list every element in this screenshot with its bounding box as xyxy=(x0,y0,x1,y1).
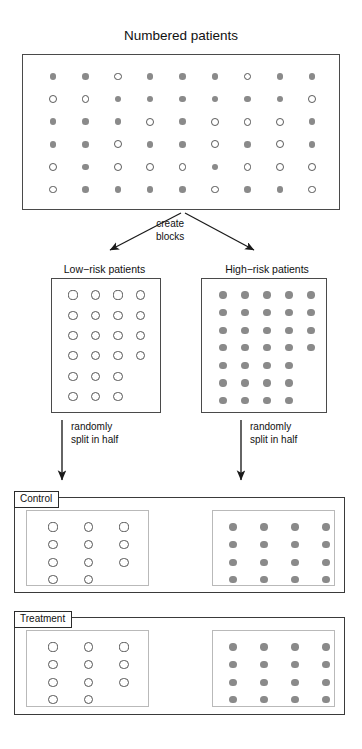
low-risk-patient-marker xyxy=(211,186,219,194)
high-risk-patient-marker xyxy=(309,141,316,148)
high-risk-patient-marker xyxy=(115,96,122,103)
low-risk-patient-marker xyxy=(211,140,219,148)
low-risk-patient-marker xyxy=(119,522,128,531)
high-risk-patient-marker xyxy=(263,291,270,298)
low-risk-patient-marker xyxy=(48,522,57,531)
high-risk-patient-marker xyxy=(229,643,236,650)
low-risk-patient-marker xyxy=(48,642,57,651)
high-risk-patient-marker xyxy=(179,186,186,193)
high-risk-patient-marker xyxy=(291,523,298,530)
high-risk-patient-marker xyxy=(307,327,314,334)
high-risk-patient-marker xyxy=(82,186,89,193)
high-risk-patient-marker xyxy=(147,186,154,193)
low-risk-patient-marker xyxy=(244,118,252,126)
high-risk-patient-marker xyxy=(219,309,226,316)
high-risk-patient-marker xyxy=(322,661,329,668)
low-risk-randomize-line2: split in half xyxy=(71,434,118,447)
low-risk-patient-marker xyxy=(49,186,57,194)
high-risk-patient-marker xyxy=(277,73,284,80)
high-risk-patient-marker xyxy=(50,73,57,80)
low-risk-patient-marker xyxy=(146,163,154,171)
high-risk-patient-marker xyxy=(263,327,270,334)
high-risk-patient-marker xyxy=(307,291,314,298)
high-risk-patient-marker xyxy=(219,344,226,351)
high-risk-block-label: High−risk patients xyxy=(192,263,342,275)
high-risk-patient-marker xyxy=(285,309,292,316)
low-risk-patient-marker xyxy=(308,163,316,171)
high-risk-patient-marker xyxy=(260,576,267,583)
high-risk-patient-marker xyxy=(307,344,314,351)
low-risk-patient-marker xyxy=(244,163,252,171)
high-risk-patient-marker xyxy=(322,559,329,566)
low-risk-patient-marker xyxy=(84,660,93,669)
high-risk-patient-marker xyxy=(147,141,154,148)
low-risk-patient-marker xyxy=(276,163,284,171)
page-title: Numbered patients xyxy=(0,28,362,43)
high-risk-patient-marker xyxy=(244,186,251,193)
low-risk-patient-marker xyxy=(82,95,90,103)
low-risk-patient-marker xyxy=(276,140,284,148)
low-risk-patient-marker xyxy=(68,311,77,320)
high-risk-patient-marker xyxy=(241,397,248,404)
high-risk-patient-marker xyxy=(291,541,298,548)
low-risk-patient-marker xyxy=(48,540,57,549)
low-risk-patient-marker xyxy=(113,392,122,401)
create-blocks-label: create blocks xyxy=(156,218,184,243)
treatment-low-risk-grid xyxy=(27,631,148,706)
low-risk-patient-marker xyxy=(114,140,122,148)
low-risk-patient-marker xyxy=(68,372,77,381)
high-risk-patient-marker xyxy=(291,559,298,566)
high-risk-patient-marker xyxy=(219,291,226,298)
high-risk-patient-marker xyxy=(219,397,226,404)
high-risk-patient-marker xyxy=(322,576,329,583)
create-blocks-arrow-right xyxy=(185,213,254,250)
high-risk-patient-marker xyxy=(263,397,270,404)
low-risk-patient-marker xyxy=(68,290,77,299)
low-risk-patient-marker xyxy=(91,351,100,360)
low-risk-patient-marker xyxy=(48,558,57,567)
high-risk-patient-marker xyxy=(229,523,236,530)
high-risk-patient-marker xyxy=(291,661,298,668)
high-risk-patient-marker xyxy=(229,576,236,583)
high-risk-patient-marker xyxy=(263,362,270,369)
low-risk-patient-marker xyxy=(84,558,93,567)
high-risk-patient-marker xyxy=(322,643,329,650)
high-risk-patient-marker xyxy=(322,696,329,703)
high-risk-patient-marker xyxy=(309,73,316,80)
high-risk-patient-marker xyxy=(241,379,248,386)
control-high-risk-grid xyxy=(213,511,334,585)
low-risk-patient-marker xyxy=(113,372,122,381)
high-risk-patient-marker xyxy=(260,679,267,686)
high-risk-patient-marker xyxy=(263,379,270,386)
high-risk-patient-marker xyxy=(263,344,270,351)
low-risk-patient-marker xyxy=(114,73,122,81)
control-group-label: Control xyxy=(14,491,59,508)
patient-pool-box xyxy=(22,54,340,210)
low-risk-patient-marker xyxy=(119,558,128,567)
low-risk-patient-marker xyxy=(84,678,93,687)
high-risk-patient-marker xyxy=(212,96,219,103)
high-risk-patient-marker xyxy=(285,397,292,404)
low-risk-patient-marker xyxy=(84,695,93,704)
treatment-high-risk-grid xyxy=(213,631,334,706)
high-risk-patient-marker xyxy=(229,661,236,668)
low-risk-randomize-line1: randomly xyxy=(71,421,118,434)
low-risk-patient-marker xyxy=(113,351,122,360)
low-risk-patient-marker xyxy=(48,575,57,584)
low-risk-patient-marker xyxy=(84,642,93,651)
high-risk-patient-marker xyxy=(285,362,292,369)
create-blocks-label-line2: blocks xyxy=(156,231,184,244)
low-risk-block-box xyxy=(51,278,161,413)
high-risk-patient-marker xyxy=(82,141,89,148)
high-risk-patient-marker xyxy=(277,96,284,103)
high-risk-patient-marker xyxy=(219,362,226,369)
low-risk-patient-marker xyxy=(84,575,93,584)
low-risk-patient-marker xyxy=(179,163,187,171)
high-risk-patient-marker xyxy=(229,696,236,703)
high-risk-patient-marker xyxy=(241,291,248,298)
patient-pool-grid xyxy=(23,55,339,209)
high-risk-patient-marker xyxy=(285,344,292,351)
control-high-risk-box xyxy=(212,510,335,586)
high-risk-block-grid xyxy=(202,279,326,412)
high-risk-patient-marker xyxy=(244,96,251,103)
